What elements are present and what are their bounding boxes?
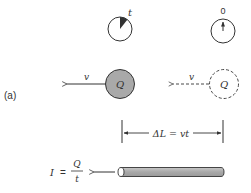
charge-present: v Q — [67, 70, 135, 99]
charge-initial: v Q — [173, 70, 239, 99]
panel-label: (a) — [4, 90, 16, 101]
velocity-label: v — [84, 72, 89, 82]
current-symbol: I — [49, 167, 55, 178]
length-dimension: ΔL = vt — [122, 120, 223, 143]
dimension-label: ΔL = vt — [152, 128, 190, 139]
current-equation: I = Q t — [49, 159, 115, 184]
charge-label: Q — [116, 79, 124, 90]
velocity-label-dashed: v — [189, 72, 194, 82]
wire-segment — [118, 168, 224, 177]
fraction-numerator: Q — [73, 159, 81, 169]
charge-label-dashed: Q — [220, 79, 228, 90]
fraction-denominator: t — [75, 174, 79, 184]
equals-sign: = — [60, 167, 66, 178]
charge-flow-diagram: t 0 (a) v Q v Q ΔL = vt I = Q t — [0, 0, 251, 193]
clock-zero-label: 0 — [220, 6, 225, 16]
clock-elapsed-label: t — [128, 7, 133, 18]
wire-end-cap — [118, 168, 124, 177]
clock-icon-elapsed: t — [108, 7, 133, 41]
clock-icon-zero: 0 — [211, 6, 235, 43]
